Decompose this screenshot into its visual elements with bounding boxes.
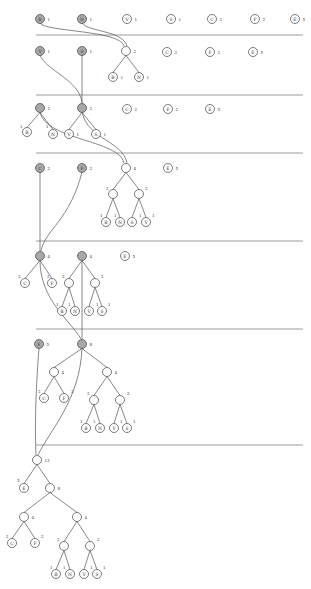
node-weight: 2 — [48, 166, 51, 171]
node-letter: N — [118, 220, 122, 225]
node-letter: F — [62, 396, 65, 401]
node-weight: 1 — [179, 17, 182, 22]
edge-weight: 1 — [103, 565, 106, 570]
node-weight: 2 — [218, 50, 221, 55]
node-internal — [135, 190, 144, 199]
stage-5: 222211114CF4BNVSE5 — [18, 252, 136, 316]
node-F: F2 — [251, 15, 266, 24]
node-letter: F — [33, 541, 36, 546]
edge-weight: 1 — [133, 419, 136, 424]
node-circle — [86, 542, 95, 551]
node-weight: 5 — [218, 107, 221, 112]
node-internal: 8 — [78, 340, 93, 349]
node-internal — [116, 396, 125, 405]
node-weight: 4 — [90, 254, 93, 259]
node-V: V — [80, 570, 89, 579]
tree-edge — [107, 377, 120, 396]
node-circle — [73, 513, 82, 522]
stage-transitions — [35, 23, 127, 455]
node-circle — [78, 104, 87, 113]
node-letter: E — [208, 107, 211, 112]
node-circle — [109, 190, 118, 199]
node-weight: 1 — [48, 17, 51, 22]
node-internal — [91, 279, 100, 288]
node-weight: 2 — [220, 17, 223, 22]
node-letter: S — [100, 309, 103, 314]
node-circle — [50, 368, 59, 377]
tree-edge — [82, 261, 95, 279]
node-S: S1 — [92, 130, 107, 139]
node-weight: 4 — [48, 254, 51, 259]
edge-weight: 1 — [63, 565, 66, 570]
node-C: C2 — [163, 48, 178, 57]
node-weight: 1 — [104, 132, 107, 137]
tree-edge — [27, 113, 40, 128]
node-letter: F — [253, 17, 256, 22]
node-letter: C — [210, 17, 214, 22]
edge-weight: 2 — [6, 534, 9, 539]
edge-weight: 2 — [97, 537, 100, 542]
node-letter: E — [22, 486, 25, 491]
node-letter: S — [94, 132, 97, 137]
node-letter: N — [80, 17, 84, 22]
node-letter: C — [10, 541, 14, 546]
node-weight: 1 — [90, 17, 93, 22]
edge-weight: 2 — [87, 391, 90, 396]
node-weight: 4 — [115, 370, 118, 375]
tree-edge — [113, 173, 126, 190]
node-weight: 5 — [133, 254, 136, 259]
node-E: E5 — [206, 105, 221, 114]
stage-1: B1N1V1S1C2F2E5 — [36, 15, 306, 24]
tree-edge — [126, 56, 139, 73]
node-letter: F — [50, 281, 53, 286]
node-internal: 8 — [46, 484, 61, 493]
node-letter: S — [125, 426, 128, 431]
node-F: F — [48, 279, 57, 288]
node-S: S — [128, 218, 137, 227]
node-weight: 2 — [90, 166, 93, 171]
node-circle — [46, 484, 55, 493]
node-B: B1 — [109, 73, 124, 82]
node-weight: 4 — [62, 370, 65, 375]
huffman-diagram: B1N1V1S1C2F2E5V1S12B1N1C2F2E5112BN2V1S1C… — [0, 0, 311, 589]
node-internal: 4 — [73, 513, 88, 522]
node-circle — [78, 340, 87, 349]
node-letter: C — [23, 281, 27, 286]
transition-edge — [40, 55, 82, 103]
node-F: F2 — [78, 164, 93, 173]
node-letter: C — [125, 107, 129, 112]
node-letter: E — [123, 254, 126, 259]
node-letter: C — [165, 50, 169, 55]
node-weight: 2 — [175, 50, 178, 55]
node-weight: 5 — [261, 50, 264, 55]
node-N: N1 — [78, 15, 93, 24]
node-circle — [91, 279, 100, 288]
node-weight: 5 — [303, 17, 306, 22]
node-N: N1 — [135, 73, 150, 82]
node-N: N — [49, 130, 58, 139]
node-internal — [86, 542, 95, 551]
node-circle — [65, 279, 74, 288]
node-F: F2 — [164, 105, 179, 114]
edge-weight: 1 — [120, 419, 123, 424]
node-B: B — [82, 424, 91, 433]
tree-edge — [64, 522, 77, 542]
edge-weight: 2 — [41, 534, 44, 539]
edge-weight: 2 — [62, 274, 65, 279]
tree-edge — [54, 349, 82, 368]
edge-weight: 2 — [38, 389, 41, 394]
node-B: B — [102, 218, 111, 227]
transition-edge — [82, 112, 127, 163]
node-internal: 4 — [122, 164, 137, 173]
node-weight: 2 — [48, 106, 51, 111]
tree-edge — [82, 349, 107, 368]
edge-weight: 1 — [96, 302, 99, 307]
edge-weight: 1 — [139, 213, 142, 218]
node-F: F — [31, 539, 40, 548]
tree-edge — [106, 199, 113, 218]
stage-4: 221111C2F24BNSVE5 — [36, 164, 179, 227]
node-letter: F — [80, 166, 83, 171]
tree-edge — [50, 493, 77, 513]
node-weight: 1 — [135, 17, 138, 22]
node-S: S — [98, 307, 107, 316]
